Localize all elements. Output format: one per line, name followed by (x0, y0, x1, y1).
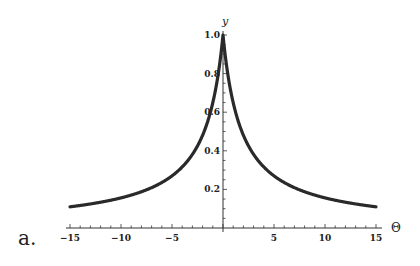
chart: −15−10−5510150.20.40.60.81.0yΘa. (0, 0, 420, 266)
x-tick-label: −10 (111, 233, 131, 243)
y-tick-label: 1.0 (204, 30, 220, 40)
y-tick-label: 0.6 (204, 107, 220, 117)
axes (66, 31, 382, 232)
y-axis-label: y (221, 15, 229, 28)
x-tick-label: 15 (370, 233, 383, 243)
x-tick-label: −5 (165, 233, 179, 243)
labels: −15−10−5510150.20.40.60.81.0yΘa. (18, 15, 401, 250)
panel-label: a. (18, 226, 36, 250)
y-tick-label: 0.2 (204, 184, 220, 194)
x-tick-label: 5 (271, 233, 277, 243)
x-axis-label: Θ (391, 221, 401, 235)
y-tick-label: 0.4 (204, 146, 220, 156)
x-tick-label: 10 (319, 233, 332, 243)
x-tick-label: −15 (60, 233, 80, 243)
y-tick-label: 0.8 (204, 69, 220, 79)
